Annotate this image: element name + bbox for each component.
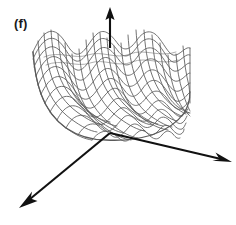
x-axis-arrow [110, 133, 232, 162]
surface-fill-mask [33, 30, 190, 140]
z-axis-arrow [105, 7, 114, 48]
surface-mesh [33, 30, 190, 140]
y-axis-arrow [19, 133, 110, 208]
surface-plot-svg [0, 0, 236, 225]
figure-panel: (f) [0, 0, 236, 225]
